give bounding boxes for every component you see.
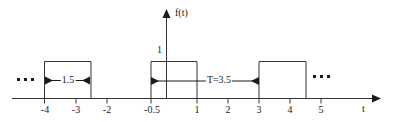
pulse-width-arrow-right (82, 77, 90, 85)
x-tick-label--3: -3 (72, 105, 80, 115)
time-axis-label: t (362, 104, 365, 114)
pulse-center (151, 62, 197, 99)
continuation-dots-right (313, 75, 330, 78)
amplitude-axis-arrowhead (163, 9, 171, 18)
dot (24, 78, 27, 81)
x-tick-label--4: -4 (41, 105, 49, 115)
continuation-dots-left (17, 78, 34, 81)
x-tick-label--0.5: -0.5 (144, 105, 160, 115)
x-tick-label-1: 1 (195, 105, 200, 115)
dot (31, 78, 34, 81)
time-axis-arrowhead (372, 95, 381, 103)
dot (313, 75, 316, 78)
dot (320, 75, 323, 78)
period-label: T=3.5 (206, 75, 232, 85)
x-tick-label--2: -2 (103, 105, 111, 115)
pulse-width-arrow-left (45, 77, 53, 85)
amplitude-axis (163, 9, 171, 99)
x-tick-label-2: 2 (226, 105, 231, 115)
pulse-width-label: 1.5 (61, 75, 76, 85)
period-arrow-right (251, 77, 259, 85)
amplitude-axis-label: f(t) (175, 8, 188, 18)
dot (17, 78, 20, 81)
x-tick-label-3: 3 (257, 105, 262, 115)
pulse-right (259, 62, 306, 99)
x-tick-label-4: 4 (288, 105, 293, 115)
pulse-train-figure: f(t) t 1 -4 -3 -2 -0.5 1 2 3 4 5 1.5 T=3… (0, 0, 397, 122)
x-axis-ticks (45, 99, 322, 104)
amplitude-value-label: 1 (157, 45, 162, 55)
x-tick-label-5: 5 (319, 105, 324, 115)
period-arrow-left (151, 77, 159, 85)
dot (327, 75, 330, 78)
